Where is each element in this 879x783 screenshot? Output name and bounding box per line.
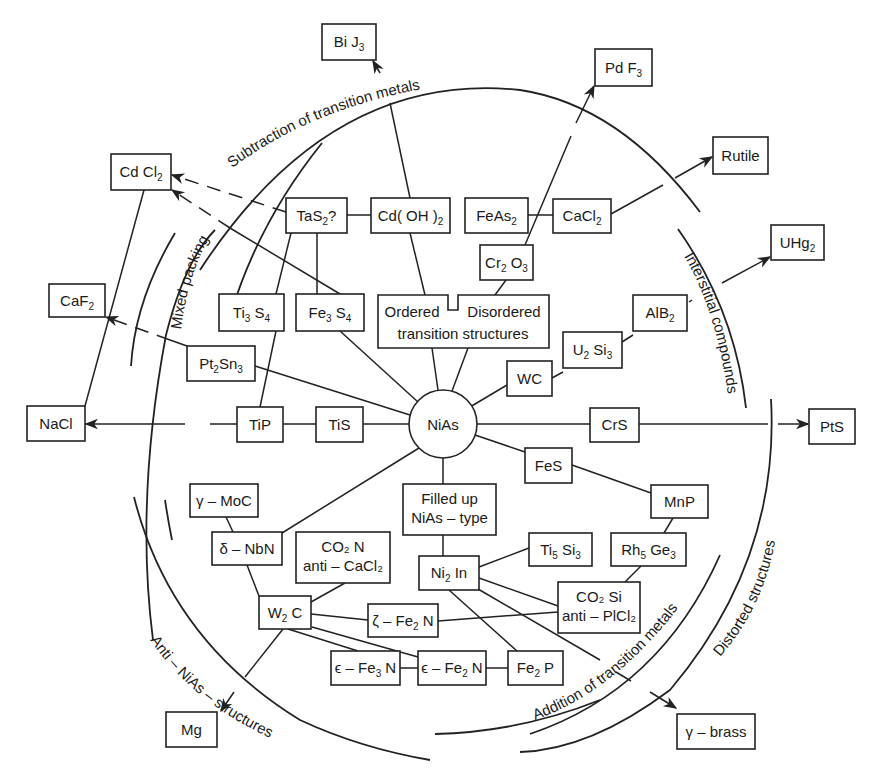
disordered-label: Disordered xyxy=(467,303,540,320)
box-label: CrS xyxy=(602,416,628,433)
structure-box-mg[interactable]: Mg xyxy=(166,712,217,747)
structure-box-fes[interactable]: FeS xyxy=(525,448,572,483)
structure-box-feas2[interactable]: FeAs2 xyxy=(465,198,528,233)
box-label-line: CO₂ Si xyxy=(576,588,622,605)
structure-box-efe2n[interactable]: ϵ – Fe2 N xyxy=(418,651,486,685)
structure-box-rutile[interactable]: Rutile xyxy=(713,137,768,174)
transition-structures-box[interactable]: Ordered Disordered transition structures xyxy=(378,295,549,348)
box-label-line: anti – PlCl₂ xyxy=(562,607,636,624)
structure-box-uhg2[interactable]: UHg2 xyxy=(771,225,824,260)
box-label-line: CO₂ N xyxy=(321,538,364,555)
arc-bottom-inner xyxy=(435,700,600,734)
center-node-nias[interactable]: NiAs xyxy=(409,390,477,458)
structure-box-ti5si3[interactable]: Ti5 Si3 xyxy=(529,533,592,566)
box-label: WC xyxy=(517,370,542,387)
edges xyxy=(85,61,808,711)
label-mixed-packing: Mixed packing xyxy=(167,232,211,330)
box-label: Rutile xyxy=(721,147,759,164)
box-label: TiP xyxy=(249,416,271,433)
box-label: MnP xyxy=(664,493,695,510)
structure-box-rh5ge3[interactable]: Rh5 Ge3 xyxy=(611,533,686,566)
box-label: NaCl xyxy=(39,415,72,432)
label-subtraction: Subtraction of transition metals xyxy=(224,76,421,171)
center-label: NiAs xyxy=(427,416,459,433)
box-label-line: NiAs – type xyxy=(411,509,488,526)
structure-box-cdoh2[interactable]: Cd( OH )2 xyxy=(371,198,450,233)
structure-box-cr2o3[interactable]: Cr2 O3 xyxy=(480,245,533,280)
label-interstitial: Interstitial compounds xyxy=(681,249,741,395)
structure-box-co2n[interactable]: CO₂ Nanti – CaCl₂ xyxy=(296,532,390,583)
structure-box-tip[interactable]: TiP xyxy=(237,407,283,442)
structure-box-fe3s4[interactable]: Fe3 S4 xyxy=(296,294,364,331)
ordered-label: Ordered xyxy=(384,303,439,320)
structure-box-caf2[interactable]: CaF2 xyxy=(49,284,105,317)
structure-box-cdcl2[interactable]: Cd Cl2 xyxy=(111,154,171,190)
structure-box-w2c[interactable]: W2 C xyxy=(259,596,311,629)
box-label: FeS xyxy=(535,457,563,474)
structure-box-pt2sn3[interactable]: Pt2Sn3 xyxy=(187,346,255,381)
structure-box-bij3[interactable]: Bi J3 xyxy=(322,24,376,60)
structure-box-crs[interactable]: CrS xyxy=(590,408,639,442)
box-label: Mg xyxy=(181,721,202,738)
structure-box-dnbn[interactable]: δ – NbN xyxy=(212,532,282,565)
structure-box-mnp[interactable]: MnP xyxy=(651,485,708,518)
structure-box-nacl[interactable]: NaCl xyxy=(27,406,85,441)
box-label: δ – NbN xyxy=(219,540,274,557)
arc-bottom-left-short xyxy=(165,500,172,540)
arc-mixed-outer xyxy=(131,233,175,366)
structure-box-co2si[interactable]: CO₂ Sianti – PlCl₂ xyxy=(558,582,640,633)
structure-box-u2si3[interactable]: U2 Si3 xyxy=(563,332,622,368)
structure-box-ni2in[interactable]: Ni2 In xyxy=(419,556,479,590)
structure-box-pts[interactable]: PtS xyxy=(809,409,855,444)
box-label: γ – MoC xyxy=(196,492,252,509)
structure-box-gbrass[interactable]: γ – brass xyxy=(677,714,755,749)
structure-box-tis[interactable]: TiS xyxy=(316,407,363,442)
structure-box-wc[interactable]: WC xyxy=(507,361,552,396)
transition-structures-label: transition structures xyxy=(398,325,529,342)
box-label: γ – brass xyxy=(686,723,747,740)
box-label-line: anti – CaCl₂ xyxy=(303,557,383,574)
box-label-line: Filled up xyxy=(421,490,478,507)
structure-box-pdf3[interactable]: Pd F3 xyxy=(595,49,652,86)
structure-box-ti3s4[interactable]: Ti3 S4 xyxy=(219,294,284,331)
arc-subtraction xyxy=(200,88,700,270)
niAs-structure-relationship-diagram: Subtraction of transition metals Interst… xyxy=(0,0,879,783)
structure-box-alb2[interactable]: AlB2 xyxy=(633,295,687,331)
structure-box-tas2[interactable]: TaS2? xyxy=(286,198,347,233)
structure-box-gmoc[interactable]: γ – MoC xyxy=(190,484,258,517)
structure-box-efe3n[interactable]: ϵ – Fe3 N xyxy=(331,651,400,685)
box-label: PtS xyxy=(820,418,844,435)
box-label: TiS xyxy=(329,416,351,433)
structure-box-zfe2n[interactable]: ζ – Fe2 N xyxy=(368,604,438,637)
structure-box-filledup[interactable]: Filled upNiAs – type xyxy=(403,484,496,535)
structure-box-fe2p[interactable]: Fe2 P xyxy=(508,651,563,685)
structure-box-cacl2[interactable]: CaCl2 xyxy=(553,199,611,233)
